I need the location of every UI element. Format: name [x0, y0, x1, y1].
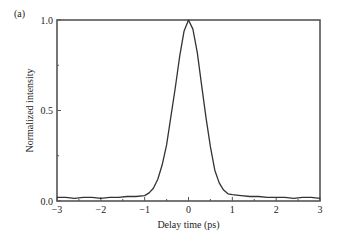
y-tick-label: 0.0 [41, 196, 54, 207]
x-tick-label: 2 [274, 204, 279, 215]
x-tick-label: −1 [139, 204, 150, 215]
data-line [57, 20, 320, 198]
x-tick-label: 1 [230, 204, 235, 215]
plot-frame [57, 20, 320, 201]
autocorrelation-chart: −3−2−101230.00.51.0Delay time (ps)Normal… [0, 0, 338, 240]
x-tick-label: −2 [96, 204, 107, 215]
y-tick-label: 1.0 [41, 15, 54, 26]
x-tick-label: −3 [52, 204, 63, 215]
x-tick-label: 0 [186, 204, 191, 215]
x-axis-label: Delay time (ps) [157, 219, 219, 231]
y-tick-label: 0.5 [41, 105, 54, 116]
x-tick-label: 3 [318, 204, 323, 215]
y-axis-label: Normalized intensity [24, 68, 35, 152]
